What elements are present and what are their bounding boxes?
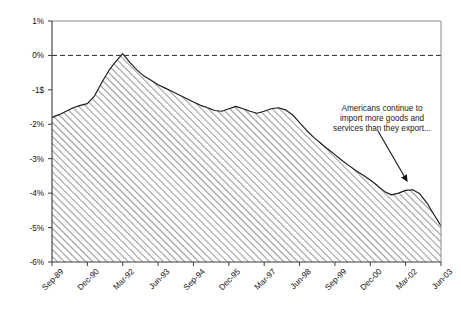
y-axis-tick-label: 1% <box>32 17 44 26</box>
x-axis-tick-label: Mar-97 <box>253 267 278 292</box>
x-axis-tick-label: Jun-98 <box>289 267 313 291</box>
y-axis-tick-label: -4% <box>29 189 44 198</box>
x-axis-tick-label: Sep-99 <box>323 267 348 292</box>
annotation-line-2: import more goods and <box>340 114 425 123</box>
x-axis-tick-label: Dec-90 <box>76 267 101 292</box>
x-axis-tick-label: Jun-03 <box>430 267 454 291</box>
x-axis-tick-label: Jun-93 <box>147 267 171 291</box>
y-axis-tick-label: -6% <box>29 258 44 267</box>
x-axis-tick-label: Mar-92 <box>111 267 136 292</box>
x-axis-ticks: Sep-89Dec-90Mar-92Jun-93Sep-94Dec-95Mar-… <box>40 262 454 292</box>
x-axis-tick-label: Dec-00 <box>359 267 384 292</box>
x-axis-tick-label: Sep-89 <box>40 267 65 292</box>
y-axis-ticks: 1%0%-1$-2%-3%-4%-5%-6% <box>29 17 52 267</box>
y-axis-tick-label: 0% <box>32 51 44 60</box>
chart-container: 1%0%-1$-2%-3%-4%-5%-6% Sep-89Dec-90Mar-9… <box>0 0 461 311</box>
y-axis-tick-label: -1$ <box>32 86 44 95</box>
x-axis-tick-label: Mar-02 <box>394 267 419 292</box>
y-axis-tick-label: -2% <box>29 120 44 129</box>
y-axis-tick-label: -3% <box>29 155 44 164</box>
annotation-line-3: services than they export... <box>333 124 431 133</box>
x-axis-tick-label: Sep-94 <box>182 267 207 292</box>
annotation-line-1: Americans continue to <box>341 104 422 113</box>
x-axis-tick-label: Dec-95 <box>217 267 242 292</box>
trade-balance-area-chart: 1%0%-1$-2%-3%-4%-5%-6% Sep-89Dec-90Mar-9… <box>0 0 461 311</box>
y-axis-tick-label: -5% <box>29 224 44 233</box>
